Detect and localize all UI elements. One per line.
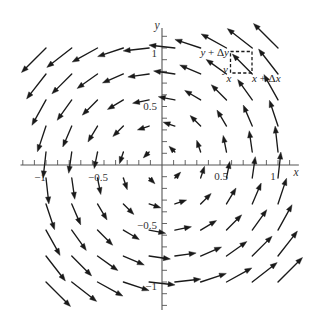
arrow-shaft bbox=[232, 32, 252, 48]
vector-arrow bbox=[196, 140, 201, 152]
vector-arrow bbox=[72, 48, 97, 62]
vector-arrow bbox=[123, 178, 128, 190]
arrow-shaft bbox=[123, 282, 143, 289]
arrow-shaft bbox=[46, 282, 66, 302]
arrowhead-icon bbox=[217, 110, 223, 117]
vector-arrow bbox=[175, 226, 192, 231]
arrow-shaft bbox=[190, 93, 201, 99]
arrowhead-icon bbox=[184, 226, 191, 231]
arrowhead-icon bbox=[179, 200, 186, 205]
arrow-shaft bbox=[82, 74, 98, 85]
vector-arrow bbox=[227, 29, 252, 48]
vector-arrow bbox=[123, 48, 149, 53]
arrowhead-icon bbox=[180, 65, 187, 70]
arrow-shaft bbox=[39, 126, 46, 146]
arrow-shaft bbox=[72, 230, 83, 246]
arrow-shaft bbox=[72, 282, 92, 298]
vector-arrow bbox=[238, 80, 253, 100]
arrow-shaft bbox=[52, 48, 72, 64]
arrowhead-icon bbox=[57, 113, 63, 120]
arrowhead-icon bbox=[153, 203, 160, 208]
vector-arrow bbox=[226, 188, 236, 204]
vector-arrow bbox=[158, 95, 175, 100]
y-plus-delta-y-label: y + Δy bbox=[199, 46, 229, 58]
arrowhead-icon bbox=[214, 247, 221, 252]
arrowhead-icon bbox=[185, 90, 192, 96]
arrowhead-icon bbox=[248, 131, 253, 138]
arrow-shaft bbox=[46, 204, 53, 224]
vector-arrow bbox=[46, 178, 51, 204]
arrow-shaft bbox=[113, 100, 124, 106]
arrow-shaft bbox=[252, 266, 272, 282]
arrow-shaft bbox=[175, 254, 190, 256]
vector-arrow bbox=[98, 282, 123, 296]
arrowhead-icon bbox=[119, 156, 124, 163]
arrowhead-icon bbox=[67, 166, 72, 173]
vector-arrow bbox=[123, 256, 144, 265]
vector-arrow bbox=[248, 131, 253, 152]
y-axis-label: y bbox=[153, 19, 160, 32]
arrowhead-icon bbox=[88, 135, 94, 142]
arrow-shaft bbox=[46, 178, 48, 198]
vector-arrow bbox=[278, 231, 297, 256]
arrow-shaft bbox=[164, 98, 175, 100]
vector-arrow bbox=[226, 215, 241, 230]
arrowhead-icon bbox=[219, 273, 226, 278]
arrow-shaft bbox=[237, 58, 253, 74]
vector-arrow bbox=[47, 48, 72, 67]
vector-arrow bbox=[57, 100, 72, 120]
vector-arrow bbox=[278, 205, 292, 230]
vector-arrow bbox=[143, 151, 150, 158]
vector-arrow bbox=[27, 74, 46, 99]
arrow-shaft bbox=[30, 74, 46, 94]
vector-arrow bbox=[222, 135, 227, 152]
vector-field-diagram: −1 −0.5 0.5 1 1 0.5 −0.5 −1 x y y + Δy y… bbox=[0, 0, 317, 327]
arrow-shaft bbox=[129, 48, 149, 50]
arrow-shaft bbox=[201, 275, 221, 282]
arrowhead-icon bbox=[54, 248, 60, 255]
arrowhead-icon bbox=[194, 277, 201, 282]
vector-arrow bbox=[201, 193, 212, 204]
arrow-shaft bbox=[72, 204, 79, 219]
arrow-shaft bbox=[224, 141, 226, 152]
arrow-shaft bbox=[226, 219, 237, 230]
vector-arrow bbox=[72, 230, 87, 250]
arrowhead-icon bbox=[102, 78, 109, 83]
arrowhead-icon bbox=[97, 187, 102, 194]
y-tick-label-0.5: 0.5 bbox=[143, 100, 157, 112]
vector-arrow bbox=[278, 257, 303, 282]
arrowhead-icon bbox=[32, 118, 38, 125]
vector-arrow bbox=[201, 220, 217, 230]
arrow-shaft bbox=[226, 193, 232, 204]
vector-arrow bbox=[93, 152, 98, 169]
vector-arrow bbox=[243, 105, 252, 126]
vector-arrow bbox=[102, 74, 123, 83]
vector-arrow bbox=[46, 282, 71, 307]
arrowhead-icon bbox=[37, 144, 42, 151]
arrow-shaft bbox=[95, 152, 97, 163]
arrow-shaft bbox=[134, 74, 149, 76]
arrowhead-icon bbox=[163, 256, 170, 261]
arrow-shaft bbox=[252, 215, 263, 231]
circulation-box: y + Δy y x x + Δx bbox=[199, 46, 280, 84]
arrowhead-icon bbox=[286, 205, 292, 212]
x-plus-delta-x-label: x + Δx bbox=[251, 72, 281, 84]
arrowhead-icon bbox=[201, 34, 208, 40]
arrowhead-icon bbox=[77, 82, 84, 88]
vector-arrow bbox=[169, 146, 176, 153]
arrowhead-icon bbox=[243, 105, 248, 112]
arrow-shaft bbox=[98, 256, 114, 267]
arrowhead-icon bbox=[137, 125, 144, 130]
arrow-shaft bbox=[61, 100, 72, 116]
arrow-shaft bbox=[123, 204, 129, 210]
arrowhead-icon bbox=[107, 104, 114, 110]
arrowhead-icon bbox=[50, 222, 55, 229]
arrow-shaft bbox=[72, 178, 74, 193]
vector-arrow bbox=[72, 256, 92, 276]
x-tick-label-1: 1 bbox=[270, 170, 276, 182]
arrowhead-icon bbox=[168, 282, 175, 287]
vector-arrow bbox=[98, 204, 108, 220]
x-axis-label: x bbox=[292, 166, 299, 178]
arrow-shaft bbox=[175, 280, 195, 282]
vector-arrow bbox=[259, 49, 278, 74]
